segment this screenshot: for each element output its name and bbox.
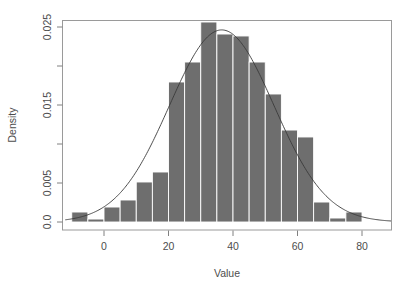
- histogram-bar: [136, 182, 152, 222]
- x-axis-tick-label: 20: [163, 240, 175, 252]
- histogram-bar: [298, 137, 314, 222]
- histogram-bar: [281, 130, 297, 222]
- y-axis-title: Density: [6, 107, 18, 143]
- histogram-bar: [265, 94, 281, 222]
- histogram-bar: [249, 62, 265, 222]
- histogram-plot: 020406080 0.00.0050.0150.025 Value Densi…: [0, 0, 415, 296]
- histogram-bar: [346, 212, 362, 222]
- x-axis-tick-label: 60: [292, 240, 304, 252]
- histogram-bar: [233, 36, 249, 222]
- y-axis-tick-label: 0.005: [41, 170, 53, 196]
- histogram-figure: 020406080 0.00.0050.0150.025 Value Densi…: [0, 0, 415, 296]
- y-axis-tick-label: 0.015: [41, 92, 53, 118]
- x-axis-tick-label: 40: [227, 240, 239, 252]
- y-axis-tick-label: 0.0: [41, 215, 53, 230]
- histogram-bar: [217, 34, 233, 222]
- x-axis-tick-label: 80: [356, 240, 368, 252]
- histogram-bar: [314, 202, 330, 222]
- histogram-bar: [185, 62, 201, 222]
- x-axis-title: Value: [214, 267, 240, 279]
- histogram-bar: [201, 22, 217, 222]
- histogram-bar: [330, 218, 346, 222]
- histogram-bar: [88, 219, 104, 222]
- y-axis-tick-label: 0.025: [41, 14, 53, 40]
- x-axis-tick-label: 0: [101, 240, 107, 252]
- histogram-bar: [104, 207, 120, 222]
- histogram-bar: [120, 200, 136, 222]
- histogram-bar: [152, 172, 168, 222]
